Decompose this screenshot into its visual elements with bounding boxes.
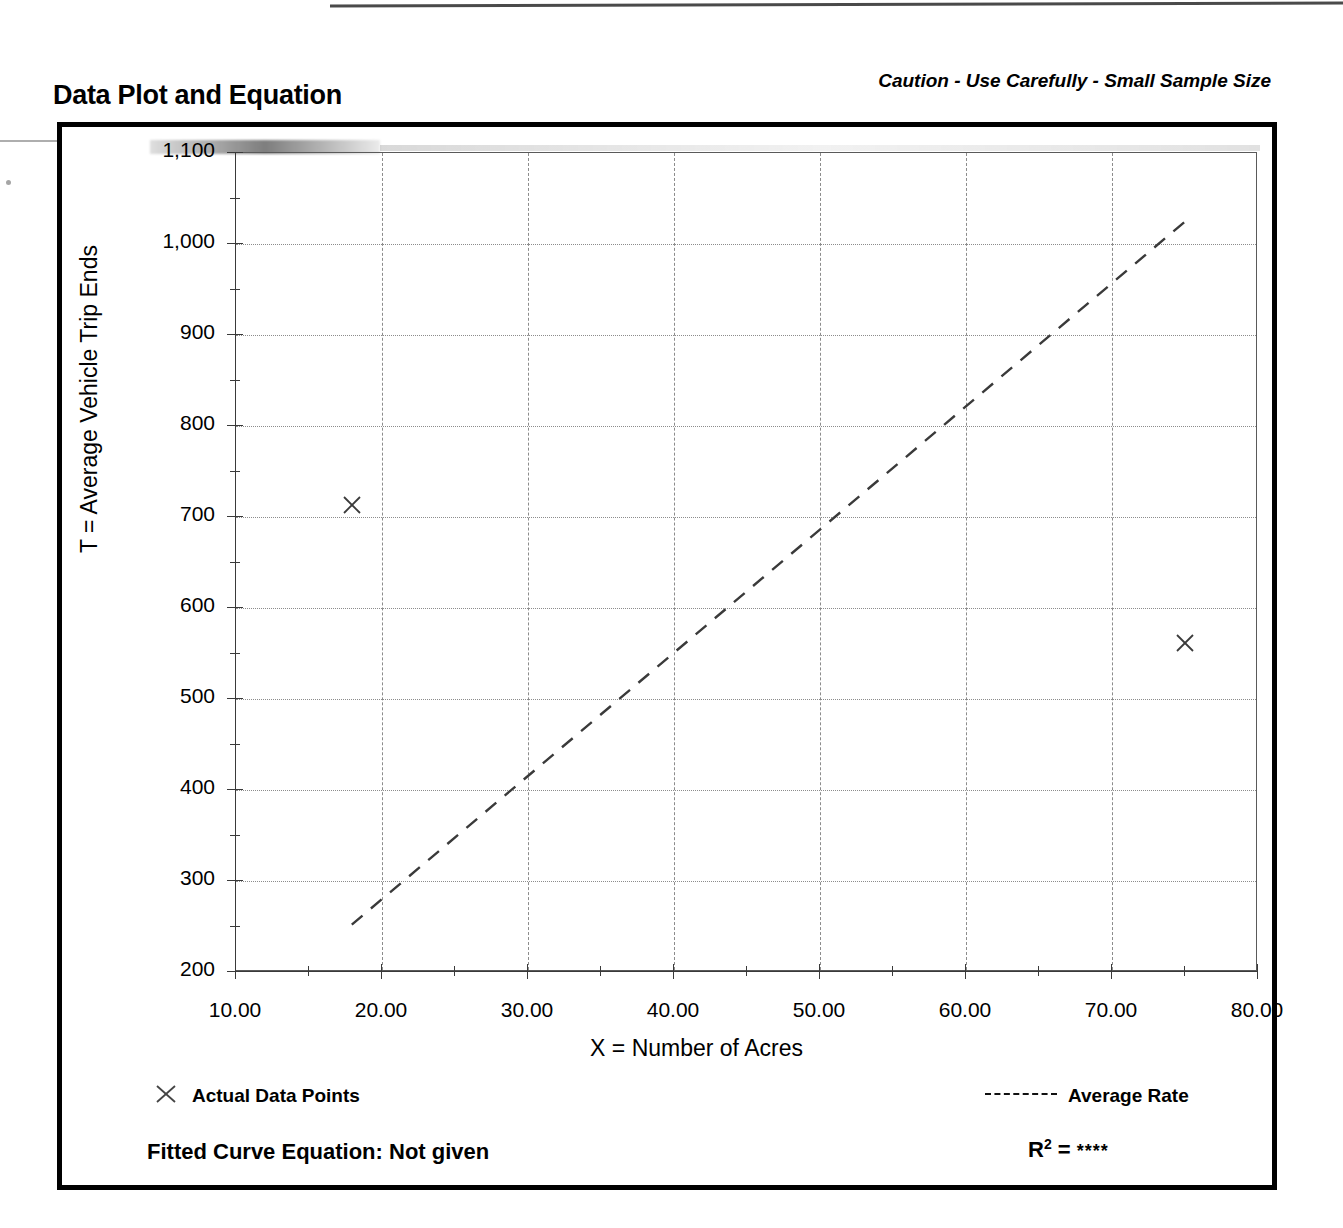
legend-actual-data-points-label: Actual Data Points [192, 1085, 360, 1107]
scan-artifact-left-tick [0, 140, 60, 142]
y-axis-tick-label: 1,000 [75, 229, 215, 253]
gridline-vertical [966, 153, 967, 970]
y-axis-tick [227, 152, 243, 153]
x-axis-tick-label: 60.00 [939, 998, 992, 1022]
x-axis-tick-label: 40.00 [647, 998, 700, 1022]
r-squared-stars: **** [1077, 1141, 1109, 1161]
gridline-horizontal [236, 517, 1256, 518]
x-axis-tick [1257, 964, 1258, 979]
x-axis-tick [673, 964, 674, 979]
x-axis-minor-tick [600, 966, 601, 976]
x-axis-minor-tick [1184, 966, 1185, 976]
x-axis-tick-label: 30.00 [501, 998, 554, 1022]
gridline-vertical [820, 153, 821, 970]
x-axis-title: X = Number of Acres [0, 1035, 1343, 1062]
x-axis-tick [235, 964, 236, 979]
y-axis-tick [227, 789, 243, 790]
scan-artifact-left-dot [6, 180, 11, 185]
gridline-horizontal [236, 244, 1256, 245]
page-title: Data Plot and Equation [53, 80, 342, 111]
y-axis-tick [227, 698, 243, 699]
x-axis-minor-tick [454, 966, 455, 976]
r-squared-equals: = [1052, 1137, 1077, 1162]
y-axis-tick [227, 334, 243, 335]
y-axis-tick [227, 516, 243, 517]
x-axis-tick [381, 964, 382, 979]
x-marker-icon [154, 1082, 178, 1106]
y-axis-tick-label: 300 [75, 866, 215, 890]
y-axis-tick-label: 700 [75, 502, 215, 526]
y-axis-tick-label: 1,100 [75, 138, 215, 162]
plot-area [235, 152, 1257, 971]
y-axis-tick-label: 400 [75, 775, 215, 799]
gridline-horizontal [236, 608, 1256, 609]
x-axis-tick [527, 964, 528, 979]
r-squared-value: R2 = **** [1028, 1136, 1109, 1163]
y-axis-tick [227, 243, 243, 244]
gridline-horizontal [236, 881, 1256, 882]
y-axis-tick [227, 880, 243, 881]
gridline-vertical [674, 153, 675, 970]
x-axis-minor-tick [746, 966, 747, 976]
gridline-horizontal [236, 426, 1256, 427]
y-axis-minor-tick [230, 380, 240, 381]
x-axis-tick-label: 80.00 [1231, 998, 1284, 1022]
gridline-vertical [528, 153, 529, 970]
y-axis-minor-tick [230, 289, 240, 290]
y-axis-tick [227, 607, 243, 608]
x-axis-minor-tick [1038, 966, 1039, 976]
scan-artifact-top-rule [330, 1, 1343, 7]
y-axis-tick-label: 500 [75, 684, 215, 708]
x-axis-tick-label: 10.00 [209, 998, 262, 1022]
y-axis-tick [227, 425, 243, 426]
r-squared-exponent: 2 [1044, 1136, 1052, 1152]
y-axis-tick-label: 800 [75, 411, 215, 435]
gridline-horizontal [236, 335, 1256, 336]
y-axis-minor-tick [230, 926, 240, 927]
r-squared-symbol: R [1028, 1137, 1044, 1162]
gridline-vertical [1112, 153, 1113, 970]
gridline-vertical [382, 153, 383, 970]
y-axis-tick-label: 900 [75, 320, 215, 344]
y-axis-minor-tick [230, 744, 240, 745]
x-axis-tick-label: 70.00 [1085, 998, 1138, 1022]
x-axis-tick-label: 50.00 [793, 998, 846, 1022]
x-axis-tick [1111, 964, 1112, 979]
legend-average-rate-label: Average Rate [1068, 1085, 1189, 1107]
x-axis-tick-label: 20.00 [355, 998, 408, 1022]
y-axis-minor-tick [230, 835, 240, 836]
x-axis-minor-tick [308, 966, 309, 976]
x-axis-minor-tick [892, 966, 893, 976]
y-axis-minor-tick [230, 471, 240, 472]
dashed-line-icon [985, 1093, 1057, 1095]
gridline-horizontal [236, 790, 1256, 791]
y-axis-minor-tick [230, 562, 240, 563]
y-axis-minor-tick [230, 653, 240, 654]
x-axis-tick [965, 964, 966, 979]
y-axis-minor-tick [230, 198, 240, 199]
scan-artifact-smudge-right [380, 145, 1260, 151]
x-axis-tick [819, 964, 820, 979]
y-axis-tick-label: 600 [75, 593, 215, 617]
y-axis-tick-label: 200 [75, 957, 215, 981]
gridline-horizontal [236, 699, 1256, 700]
fitted-curve-equation: Fitted Curve Equation: Not given [147, 1139, 489, 1165]
caution-note: Caution - Use Carefully - Small Sample S… [878, 70, 1271, 92]
